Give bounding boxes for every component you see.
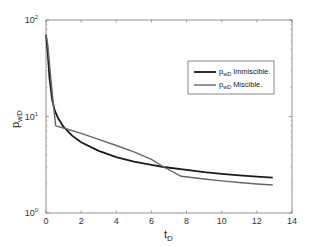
x-tick-label: 14 [287, 216, 297, 226]
y-tick-label: 102 [25, 14, 39, 25]
legend: pwDImmiscible. pwDMiscible. [188, 61, 274, 94]
x-tick-label: 12 [252, 216, 262, 226]
x-tick-label: 6 [149, 216, 154, 226]
y-tick-label: 100 [25, 207, 39, 218]
x-tick-label: 8 [184, 216, 189, 226]
y-axis-label: pwD [9, 110, 24, 128]
x-tick-label: 4 [114, 216, 119, 226]
x-tick-label: 0 [43, 216, 48, 226]
x-axis-label: tD [164, 228, 173, 243]
x-tick-label: 2 [79, 216, 84, 226]
chart: 02468101214 100101102 tD pwD pwDImmiscib… [0, 0, 313, 247]
y-tick-label: 101 [25, 111, 39, 122]
x-tick-label: 10 [217, 216, 227, 226]
